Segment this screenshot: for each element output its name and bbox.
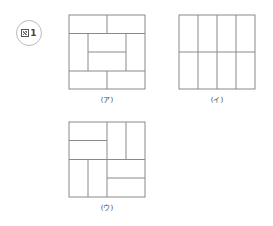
figure-u-label: (ウ)	[87, 202, 127, 212]
figure-number-badge: 1	[16, 20, 42, 46]
zu-kanji-icon	[21, 29, 29, 37]
figure-a	[68, 14, 146, 90]
figure-u	[68, 121, 146, 198]
figure-number: 1	[30, 28, 36, 38]
figure-i	[178, 14, 256, 90]
figure-i-label: (イ)	[197, 94, 237, 104]
figure-a-label: (ア)	[87, 94, 127, 104]
